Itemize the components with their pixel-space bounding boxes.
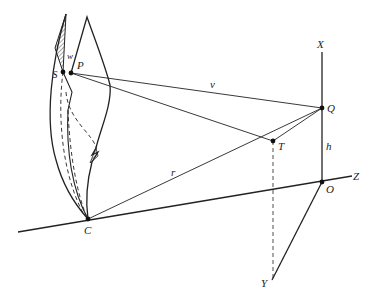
- label-z: Z: [353, 170, 360, 182]
- segment-tq: [273, 108, 322, 141]
- segment-r: [88, 108, 322, 219]
- label-w: w: [67, 51, 73, 61]
- sail-hatched-region: [55, 14, 66, 72]
- label-x: X: [316, 38, 325, 50]
- z-axis-line: [18, 176, 352, 232]
- label-y: Y: [261, 277, 269, 289]
- label-p: P: [76, 59, 84, 71]
- point-q: [320, 106, 325, 111]
- sail-geometry-diagram: S P w C Q T O X Y Z v r h: [0, 0, 372, 302]
- label-h: h: [326, 140, 332, 152]
- point-c: [86, 217, 91, 222]
- label-q: Q: [327, 102, 335, 114]
- label-o: O: [326, 183, 334, 195]
- label-c: C: [84, 224, 92, 236]
- point-p: [69, 71, 74, 76]
- point-t: [271, 139, 276, 144]
- sail-right-outline: [71, 17, 110, 219]
- label-v: v: [210, 78, 215, 90]
- y-axis-line: [272, 182, 322, 280]
- sail-dashed-curve-1: [61, 72, 84, 215]
- diagram-svg: S P w C Q T O X Y Z v r h: [0, 0, 372, 302]
- point-o: [320, 180, 325, 185]
- label-r: r: [171, 166, 176, 178]
- point-s: [61, 70, 66, 75]
- label-s: S: [52, 68, 58, 80]
- label-t: T: [278, 140, 285, 152]
